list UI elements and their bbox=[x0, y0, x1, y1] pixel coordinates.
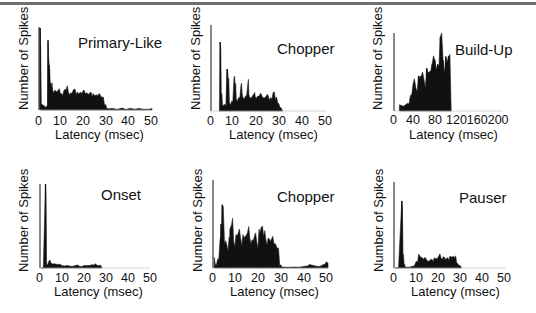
svg-text:30: 30 bbox=[99, 271, 113, 285]
x-axis-label: Latency (msec) bbox=[54, 284, 143, 299]
panel-pauser: Number of Spikes Pauser 0 10 20 30 40 50… bbox=[371, 168, 511, 299]
x-axis-label: Latency (msec) bbox=[411, 284, 500, 299]
svg-text:30: 30 bbox=[274, 271, 288, 285]
histogram-area bbox=[219, 42, 282, 111]
panel-title: Primary-Like bbox=[78, 34, 162, 51]
svg-text:50: 50 bbox=[143, 271, 157, 285]
x-tick-labels: 0 40 80 120160200 bbox=[390, 113, 509, 127]
svg-text:50: 50 bbox=[318, 114, 332, 128]
svg-text:40: 40 bbox=[121, 271, 135, 285]
panel-title: Chopper bbox=[277, 40, 335, 57]
svg-text:0: 0 bbox=[209, 271, 216, 285]
panel-build-up: Number of Spikes Build-Up 0 40 80 120160… bbox=[370, 6, 513, 142]
svg-text:30: 30 bbox=[453, 271, 467, 285]
svg-text:10: 10 bbox=[228, 271, 242, 285]
svg-text:20: 20 bbox=[76, 114, 90, 128]
svg-text:10: 10 bbox=[225, 114, 239, 128]
svg-text:50: 50 bbox=[144, 114, 158, 128]
svg-text:0: 0 bbox=[390, 113, 397, 127]
x-tick-labels: 0 10 20 30 40 50 bbox=[209, 271, 333, 285]
panel-chopper-top: Number of Spikes Chopper 0 10 20 30 40 5… bbox=[188, 6, 335, 142]
svg-text:0: 0 bbox=[35, 114, 42, 128]
panel-title: Onset bbox=[101, 186, 142, 203]
x-tick-labels: 0 10 20 30 40 50 bbox=[207, 114, 332, 128]
panel-title: Pauser bbox=[459, 189, 507, 206]
svg-text:20: 20 bbox=[251, 271, 265, 285]
x-tick-labels: 0 10 20 30 40 50 bbox=[35, 114, 158, 128]
x-axis-label: Latency (msec) bbox=[55, 127, 144, 142]
panel-title: Build-Up bbox=[455, 41, 513, 58]
svg-text:0: 0 bbox=[36, 271, 43, 285]
panel-title: Chopper bbox=[277, 188, 335, 205]
svg-text:40: 40 bbox=[295, 114, 309, 128]
svg-text:20: 20 bbox=[77, 271, 91, 285]
x-axis-label: Latency (msec) bbox=[230, 284, 319, 299]
histogram-bars bbox=[214, 205, 328, 268]
svg-text:0: 0 bbox=[390, 271, 397, 285]
y-axis-label: Number of Spikes bbox=[16, 168, 31, 272]
svg-text:50: 50 bbox=[497, 271, 511, 285]
svg-text:20: 20 bbox=[431, 271, 445, 285]
panel-primary-like: Number of Spikes Primary-Like 0 10 20 30… bbox=[16, 6, 162, 142]
histogram-area bbox=[41, 184, 102, 268]
svg-text:50: 50 bbox=[319, 271, 333, 285]
svg-text:40: 40 bbox=[297, 271, 311, 285]
svg-text:80: 80 bbox=[428, 113, 442, 127]
y-axis-label: Number of Spikes bbox=[190, 168, 205, 272]
svg-text:120160200: 120160200 bbox=[446, 113, 509, 127]
y-axis-label: Number of Spikes bbox=[188, 6, 203, 110]
x-axis-label: Latency (msec) bbox=[409, 127, 498, 142]
y-axis-label: Number of Spikes bbox=[16, 6, 31, 110]
panel-onset: Number of Spikes Onset 0 10 20 30 40 50 … bbox=[16, 168, 157, 299]
figure: Number of Spikes Primary-Like 0 10 20 30… bbox=[0, 0, 536, 313]
svg-text:20: 20 bbox=[249, 114, 263, 128]
svg-text:40: 40 bbox=[475, 271, 489, 285]
histogram-bars bbox=[395, 201, 461, 268]
svg-text:0: 0 bbox=[207, 114, 214, 128]
x-axis-label: Latency (msec) bbox=[229, 127, 318, 142]
histogram-bars bbox=[399, 33, 451, 111]
x-tick-labels: 0 10 20 30 40 50 bbox=[390, 271, 511, 285]
y-axis-label: Number of Spikes bbox=[371, 168, 386, 272]
histogram-area bbox=[395, 201, 461, 268]
y-axis-label: Number of Spikes bbox=[370, 6, 385, 110]
svg-text:10: 10 bbox=[409, 271, 423, 285]
histogram-bars bbox=[219, 42, 282, 111]
svg-text:10: 10 bbox=[55, 271, 69, 285]
svg-text:10: 10 bbox=[53, 114, 67, 128]
svg-text:40: 40 bbox=[121, 114, 135, 128]
svg-text:30: 30 bbox=[272, 114, 286, 128]
histogram-bars bbox=[41, 184, 102, 268]
x-tick-labels: 0 10 20 30 40 50 bbox=[36, 271, 157, 285]
panel-chopper-bottom: Number of Spikes Chopper 0 10 20 30 40 5… bbox=[190, 168, 335, 299]
svg-text:40: 40 bbox=[406, 113, 420, 127]
svg-text:30: 30 bbox=[99, 114, 113, 128]
